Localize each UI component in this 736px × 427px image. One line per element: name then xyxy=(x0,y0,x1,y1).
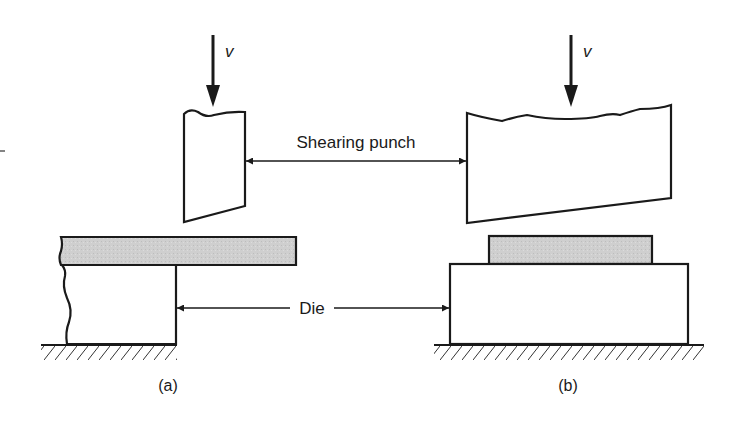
shearing-punch-a xyxy=(184,110,245,222)
workpiece-blank-b xyxy=(489,236,652,264)
die-callout: Die xyxy=(177,299,449,318)
panel-a: v (a) xyxy=(41,35,296,394)
velocity-arrow-b xyxy=(564,35,578,107)
shearing-punch-b xyxy=(467,105,671,223)
shearing-punch-label: Shearing punch xyxy=(296,133,415,152)
velocity-label-b: v xyxy=(583,42,593,61)
die-label: Die xyxy=(299,299,325,318)
caption-b: (b) xyxy=(558,377,578,394)
shearing-diagram: v (a) v (b) Shearing punch Die xyxy=(0,0,736,427)
caption-a: (a) xyxy=(158,377,178,394)
die-b xyxy=(450,264,688,344)
workpiece-strip-a xyxy=(60,237,297,265)
velocity-arrow-a xyxy=(206,35,220,107)
velocity-label-a: v xyxy=(225,42,235,61)
ground-hatch-b xyxy=(434,346,704,360)
die-a xyxy=(62,265,176,344)
shearing-punch-callout: Shearing punch xyxy=(246,133,466,161)
ground-hatch-a xyxy=(41,346,177,360)
panel-b: v (b) xyxy=(434,35,704,394)
